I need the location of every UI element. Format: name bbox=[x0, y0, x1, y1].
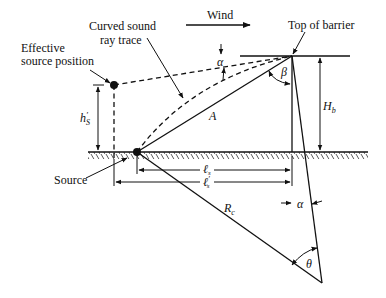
svg-text:Effective: Effective bbox=[21, 41, 65, 55]
svg-text:β: β bbox=[280, 65, 287, 79]
svg-text:Source: Source bbox=[54, 173, 87, 187]
wind-indicator: Wind bbox=[186, 8, 250, 25]
source-distance-dimensions: ℓs ℓ′s bbox=[114, 156, 292, 190]
effective-source-label: Effective source position bbox=[21, 41, 110, 83]
alpha-top: α bbox=[217, 44, 224, 80]
svg-text:Curved sound: Curved sound bbox=[89, 19, 156, 33]
path-a-label: A bbox=[208, 109, 217, 123]
svg-text:Top of barrier: Top of barrier bbox=[288, 18, 354, 32]
svg-text:ray trace: ray trace bbox=[100, 33, 142, 47]
source bbox=[133, 56, 292, 156]
svg-text:α: α bbox=[217, 55, 224, 69]
barrier-height-dimension: Hb bbox=[320, 58, 336, 150]
svg-text:ℓ′s: ℓ′s bbox=[203, 175, 210, 190]
svg-text:source position: source position bbox=[21, 54, 94, 68]
curved-ray-label: Curved sound ray trace bbox=[89, 19, 183, 98]
svg-text:α: α bbox=[297, 197, 304, 211]
ground bbox=[88, 152, 368, 159]
svg-text:Hb: Hb bbox=[322, 99, 336, 115]
svg-text:Rc: Rc bbox=[223, 201, 235, 217]
svg-text:Wind: Wind bbox=[207, 8, 233, 22]
svg-text:h′S: h′S bbox=[80, 110, 90, 127]
source-label: Source bbox=[54, 158, 127, 187]
barrier bbox=[240, 56, 350, 152]
alpha-bottom: α bbox=[281, 197, 322, 211]
effective-source bbox=[110, 56, 292, 158]
top-of-barrier-label: Top of barrier bbox=[288, 18, 354, 54]
effective-source-height-dimension: h′S bbox=[80, 85, 104, 150]
barrier-diffraction-diagram: Hb h′S Rc θ ℓs ℓ′s bbox=[0, 0, 386, 298]
svg-text:θ: θ bbox=[306, 257, 312, 271]
